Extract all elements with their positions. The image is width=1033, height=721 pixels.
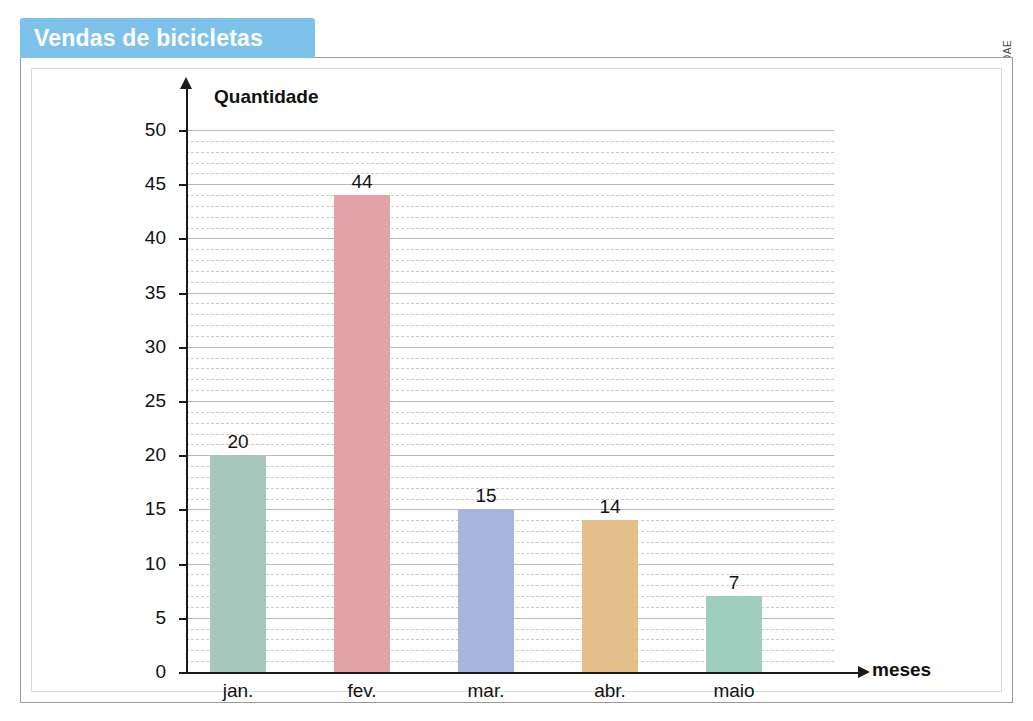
y-axis-tick-label: 25: [145, 390, 166, 412]
y-axis-tick-label: 0: [155, 661, 166, 683]
bar-value-label: 15: [475, 485, 496, 507]
y-axis-tick: [179, 401, 186, 403]
bars-layer: 204415147: [186, 115, 834, 672]
x-axis-category-label: fev.: [347, 680, 376, 702]
y-axis-arrow-icon: [180, 77, 192, 89]
y-axis-tick-label: 45: [145, 173, 166, 195]
bar-maio: 7: [706, 596, 762, 672]
chart-title-banner: Vendas de bicicletas: [20, 18, 315, 58]
x-axis-arrow-icon: [858, 666, 870, 678]
plot-area: 05101520253035404550 204415147 jan.fev.m…: [186, 115, 834, 672]
page-title: Vendas de bicicletas: [34, 25, 263, 52]
x-axis-category-label: jan.: [223, 680, 254, 702]
x-axis-title: meses: [872, 659, 931, 681]
y-axis-tick: [179, 618, 186, 620]
x-axis-category-label: abr.: [594, 680, 626, 702]
y-axis-tick-label: 20: [145, 444, 166, 466]
y-axis-tick-label: 10: [145, 553, 166, 575]
x-axis-category-label: mar.: [468, 680, 505, 702]
y-axis-tick: [179, 347, 186, 349]
bar-mar: 15: [458, 509, 514, 672]
y-axis-tick-label: 5: [155, 607, 166, 629]
y-axis-title: Quantidade: [214, 86, 319, 108]
bar-value-label: 44: [351, 171, 372, 193]
bar-fev: 44: [334, 195, 390, 672]
bar-value-label: 14: [599, 496, 620, 518]
y-axis-tick: [179, 672, 186, 674]
bar-value-label: 7: [729, 572, 740, 594]
y-axis-tick-label: 35: [145, 282, 166, 304]
x-axis-category-label: maio: [713, 680, 754, 702]
y-axis-tick: [179, 509, 186, 511]
y-axis-tick-label: 50: [145, 119, 166, 141]
y-axis-tick: [179, 130, 186, 132]
bar-jan: 20: [210, 455, 266, 672]
y-axis-tick-label: 30: [145, 336, 166, 358]
y-axis-tick: [179, 238, 186, 240]
bar-value-label: 20: [227, 431, 248, 453]
y-axis-tick: [179, 184, 186, 186]
y-axis-tick-label: 15: [145, 498, 166, 520]
y-axis-tick: [179, 564, 186, 566]
x-axis-line: [186, 672, 858, 674]
bar-abr: 14: [582, 520, 638, 672]
y-axis-tick: [179, 455, 186, 457]
y-axis-tick: [179, 293, 186, 295]
y-axis-tick-label: 40: [145, 227, 166, 249]
